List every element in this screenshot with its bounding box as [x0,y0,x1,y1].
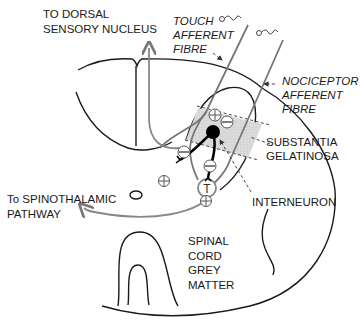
label-substantia-gelatinosa: SUBSTANTIA GELATINOSA [266,136,339,162]
svg-text:CORD: CORD [188,250,222,262]
dorsal-sensory-pathway [149,48,180,148]
svg-text:NOCICEPTOR: NOCICEPTOR [282,75,358,87]
svg-text:SENSORY NUCLEUS: SENSORY NUCLEUS [43,23,157,35]
label-spinal-cord-grey-matter: SPINAL CORD GREY MATTER [188,235,234,291]
svg-text:SPINAL: SPINAL [188,235,230,247]
transmission-cell: T [198,179,216,197]
touch-fibre-pointer [213,53,222,60]
central-canal [130,191,142,199]
svg-text:FIBRE: FIBRE [282,103,316,115]
svg-text:FIBRE: FIBRE [173,43,207,55]
label-dorsal-sensory-nucleus: TO DORSAL SENSORY NUCLEUS [43,8,157,35]
synapse-minus-right [204,160,216,172]
svg-text:To SPINOTHALAMIC: To SPINOTHALAMIC [7,193,116,205]
svg-text:TO DORSAL: TO DORSAL [43,8,110,20]
t-cell-label: T [203,182,211,196]
synapse-minus-top [221,116,233,128]
nociceptor-receptor-icon [262,30,278,34]
svg-text:MATTER: MATTER [188,279,234,291]
synapse-plus-left [159,176,170,187]
label-spinothalamic-pathway: To SPINOTHALAMIC PATHWAY [7,193,116,220]
label-nociceptor-afferent-fibre: NOCICEPTOR AFFERENT FIBRE [281,75,358,115]
synapse-plus-bottom [201,196,212,207]
svg-text:TOUCH: TOUCH [173,15,214,27]
synapse-minus-left [178,146,190,158]
svg-text:PATHWAY: PATHWAY [7,208,61,220]
svg-text:SUBSTANTIA: SUBSTANTIA [266,136,338,148]
svg-text:GREY: GREY [188,264,221,276]
label-interneuron: INTERNEURON [252,196,336,208]
synapse-plus-top [209,109,221,121]
label-touch-afferent-fibre: TOUCH AFFERENT FIBRE [172,15,235,55]
touch-receptor-icon [225,16,241,20]
gate-control-diagram: T TO DORSAL SENSORY NUCLEUS [0,0,360,321]
svg-text:AFFERENT: AFFERENT [172,29,235,41]
svg-text:GELATINOSA: GELATINOSA [266,150,339,162]
svg-text:AFFERENT: AFFERENT [281,89,344,101]
